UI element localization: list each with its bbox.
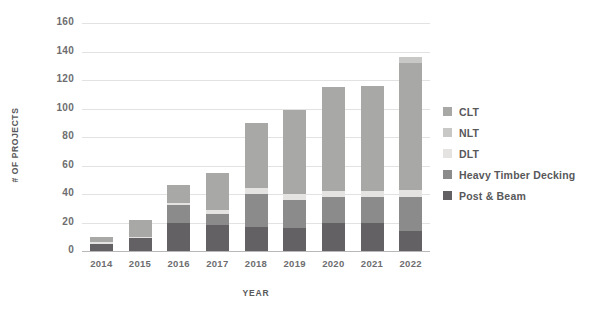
bar-segment[interactable] <box>167 185 190 202</box>
bar-segment[interactable] <box>129 220 152 237</box>
bar-segment[interactable] <box>283 110 306 194</box>
legend-swatch-icon <box>443 191 452 200</box>
legend-swatch-icon <box>443 149 452 158</box>
legend-label: CLT <box>459 106 479 118</box>
bars-layer <box>82 23 430 251</box>
y-tick-label: 80 <box>30 130 74 141</box>
y-tick-label: 140 <box>30 45 74 56</box>
stacked-bar-chart: # OF PROJECTS 020406080100120140160 2014… <box>0 0 614 319</box>
bar-segment[interactable] <box>322 197 345 223</box>
x-axis-title: YEAR <box>82 288 430 298</box>
bar-segment[interactable] <box>90 244 113 251</box>
y-tick-label: 60 <box>30 159 74 170</box>
y-axis-title: # OF PROJECTS <box>10 100 20 190</box>
bar-group[interactable] <box>167 185 190 251</box>
y-tick-label: 100 <box>30 102 74 113</box>
bar-segment[interactable] <box>399 190 422 197</box>
bar-group[interactable] <box>283 110 306 251</box>
legend-label: Heavy Timber Decking <box>459 169 575 181</box>
bar-segment[interactable] <box>245 123 268 189</box>
bar-segment[interactable] <box>245 227 268 251</box>
y-tick-label: 40 <box>30 187 74 198</box>
bar-segment[interactable] <box>399 63 422 190</box>
bar-segment[interactable] <box>361 223 384 252</box>
bar-segment[interactable] <box>206 173 229 210</box>
bar-segment[interactable] <box>206 225 229 251</box>
bar-segment[interactable] <box>167 205 190 222</box>
y-tick-label: 160 <box>30 16 74 27</box>
bar-segment[interactable] <box>322 223 345 252</box>
legend-item-heavy-timber-decking[interactable]: Heavy Timber Decking <box>443 164 575 185</box>
bar-segment[interactable] <box>322 87 345 191</box>
bar-segment[interactable] <box>245 194 268 227</box>
bar-group[interactable] <box>361 86 384 251</box>
bar-segment[interactable] <box>399 197 422 231</box>
y-tick-label: 20 <box>30 216 74 227</box>
bar-group[interactable] <box>322 87 345 251</box>
gridline <box>82 251 430 252</box>
legend-label: Post & Beam <box>459 190 526 202</box>
bar-group[interactable] <box>245 123 268 251</box>
bar-group[interactable] <box>399 57 422 251</box>
legend-item-dlt[interactable]: DLT <box>443 143 575 164</box>
bar-group[interactable] <box>129 220 152 251</box>
bar-segment[interactable] <box>167 223 190 252</box>
bar-segment[interactable] <box>206 214 229 225</box>
y-tick-label: 120 <box>30 73 74 84</box>
y-tick-label: 0 <box>30 244 74 255</box>
legend-item-post-beam[interactable]: Post & Beam <box>443 185 575 206</box>
legend-swatch-icon <box>443 170 452 179</box>
bar-group[interactable] <box>206 173 229 251</box>
bar-segment[interactable] <box>283 228 306 251</box>
bar-segment[interactable] <box>361 197 384 223</box>
legend-swatch-icon <box>443 107 452 116</box>
legend-swatch-icon <box>443 128 452 137</box>
x-tick-label: 2022 <box>388 258 434 269</box>
bar-segment[interactable] <box>399 231 422 251</box>
legend-label: DLT <box>459 148 479 160</box>
chart-legend: CLTNLTDLTHeavy Timber DeckingPost & Beam <box>443 101 575 206</box>
legend-item-nlt[interactable]: NLT <box>443 122 575 143</box>
bar-group[interactable] <box>90 237 113 251</box>
bar-segment[interactable] <box>283 200 306 229</box>
bar-segment[interactable] <box>129 238 152 251</box>
legend-item-clt[interactable]: CLT <box>443 101 575 122</box>
bar-segment[interactable] <box>361 86 384 191</box>
legend-label: NLT <box>459 127 479 139</box>
